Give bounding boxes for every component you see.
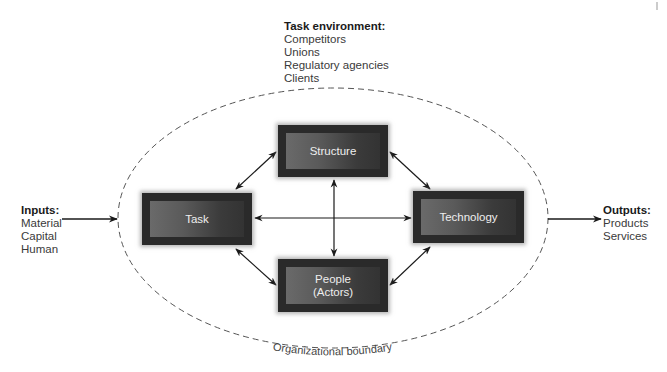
technology-box: Technology (413, 191, 524, 243)
technology-label: Technology (439, 211, 497, 224)
people-label-line1: People (315, 273, 351, 285)
structure-box: Structure (278, 125, 388, 177)
people-label: People (Actors) (313, 273, 353, 299)
structure-technology-arrow (390, 152, 430, 189)
people-label-line2: (Actors) (313, 286, 353, 298)
people-technology-arrow (390, 247, 430, 285)
task-structure-arrow (236, 152, 276, 189)
people-box: People (Actors) (278, 259, 388, 312)
task-people-arrow (236, 249, 276, 285)
diagram-canvas: Organizational boundary (0, 0, 667, 372)
structure-label: Structure (310, 145, 357, 158)
task-box: Task (142, 193, 252, 245)
task-label: Task (185, 213, 209, 226)
organizational-boundary-label: Organizational boundary (272, 340, 393, 357)
